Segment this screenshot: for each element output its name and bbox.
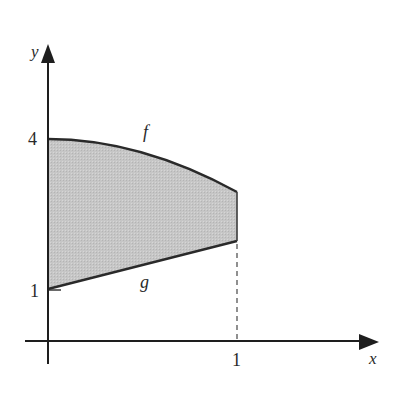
x-axis-label: x <box>368 349 377 368</box>
y-tick-label-1: 1 <box>30 281 39 301</box>
y-tick-label-4: 4 <box>28 129 37 149</box>
region-between-curves-diagram: y x 4 1 1 f g <box>0 0 413 404</box>
x-tick-label-1: 1 <box>232 350 241 370</box>
shaded-region <box>48 139 237 289</box>
x-axis-arrow-icon <box>359 334 379 350</box>
y-axis-arrow-icon <box>41 44 55 63</box>
curve-g-label: g <box>140 272 149 292</box>
curve-f-label: f <box>143 122 151 142</box>
y-axis-label: y <box>29 42 39 61</box>
